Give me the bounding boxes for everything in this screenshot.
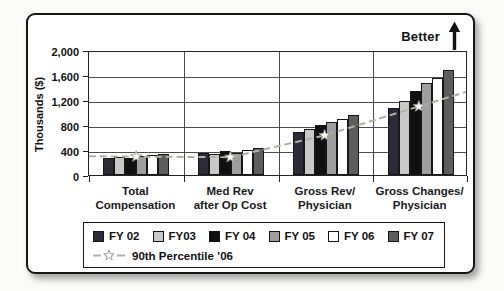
y-tick-label: 0	[73, 171, 79, 183]
legend-item-fy-05: FY 05	[269, 230, 315, 242]
y-axis: 04008001,2001,6002,000	[28, 51, 88, 176]
better-annotation: Better	[401, 21, 462, 51]
category-label-gross-changes-physician: Gross Changes/Physician	[372, 184, 467, 212]
legend-percentile-row: 90th Percentile ’06	[93, 246, 434, 265]
x-tick-mark	[467, 176, 468, 182]
legend-label: FY 07	[404, 230, 434, 242]
legend-label: FY 05	[285, 230, 315, 242]
up-arrow-icon	[447, 21, 462, 51]
y-tick-label: 400	[61, 146, 79, 158]
legend: FY 02FY03FY 04FY 05FY 06FY 07 90th Perce…	[83, 222, 445, 268]
y-tick-label: 2,000	[51, 46, 79, 58]
legend-swatch-icon	[328, 231, 339, 242]
x-tick-mark	[184, 176, 185, 182]
x-tick-mark	[373, 176, 374, 182]
category-label-line: after Op Cost	[183, 198, 278, 212]
y-tick-label: 1,200	[51, 96, 79, 108]
legend-percentile-label: 90th Percentile ’06	[132, 250, 233, 262]
x-tick-mark	[89, 176, 90, 182]
category-label-line: Total	[88, 184, 183, 198]
legend-label: FY 04	[225, 230, 255, 242]
category-label-total-compensation: TotalCompensation	[88, 184, 183, 212]
legend-swatch-icon	[153, 231, 164, 242]
y-tick-label: 1,600	[51, 71, 79, 83]
legend-item-fy03: FY03	[153, 230, 197, 242]
legend-label: FY03	[169, 230, 197, 242]
legend-item-fy-04: FY 04	[209, 230, 255, 242]
percentile-star-marker	[130, 151, 141, 162]
category-label-line: Physician	[372, 198, 467, 212]
legend-label: FY 06	[344, 230, 374, 242]
x-axis-categories: TotalCompensationMed Revafter Op CostGro…	[88, 184, 467, 212]
percentile-star-marker	[319, 129, 330, 140]
category-label-gross-rev-physician: Gross Rev/Physician	[278, 184, 373, 212]
percentile-line-layer	[89, 52, 466, 175]
category-label-med-rev-after-op-cost: Med Revafter Op Cost	[183, 184, 278, 212]
legend-swatch-icon	[269, 231, 280, 242]
category-label-line: Compensation	[88, 198, 183, 212]
category-label-line: Gross Rev/	[278, 184, 373, 198]
legend-swatch-icon	[93, 231, 104, 242]
legend-label: FY 02	[109, 230, 139, 242]
percentile-star-marker	[413, 101, 424, 112]
category-label-line: Gross Changes/	[372, 184, 467, 198]
legend-item-fy-07: FY 07	[388, 230, 434, 242]
category-label-line: Med Rev	[183, 184, 278, 198]
chart-card: Better Thousands ($) 04008001,2001,6002,…	[26, 13, 475, 274]
percentile-line-icon	[93, 249, 125, 262]
legend-swatch-icon	[388, 231, 399, 242]
y-tick-label: 800	[61, 121, 79, 133]
plot-area	[88, 51, 467, 176]
percentile-dashed-line	[89, 92, 466, 157]
legend-series-row: FY 02FY03FY 04FY 05FY 06FY 07	[93, 226, 434, 246]
legend-item-fy-06: FY 06	[328, 230, 374, 242]
percentile-star-marker	[225, 151, 236, 162]
better-label: Better	[401, 29, 440, 44]
legend-item-fy-02: FY 02	[93, 230, 139, 242]
x-tick-mark	[279, 176, 280, 182]
y-tick-mark	[83, 176, 88, 177]
category-label-line: Physician	[278, 198, 373, 212]
legend-swatch-icon	[209, 231, 220, 242]
